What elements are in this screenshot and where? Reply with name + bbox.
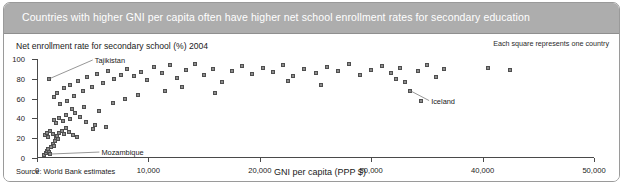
annotation-label: Tajikistan — [95, 55, 125, 64]
data-point-marker — [111, 101, 115, 105]
data-point-marker — [47, 77, 51, 81]
data-point-marker — [68, 83, 72, 87]
data-point-marker — [119, 73, 123, 77]
data-point-marker — [419, 99, 423, 103]
data-point-marker — [73, 111, 77, 115]
data-point-marker — [291, 74, 295, 78]
data-point-marker — [425, 63, 429, 67]
data-point-marker — [54, 121, 58, 125]
y-axis-tick-label: 0 — [21, 154, 25, 163]
y-axis-tick-label: 40 — [17, 114, 25, 123]
data-point-marker — [72, 94, 76, 98]
data-point-marker — [211, 67, 215, 71]
data-point-marker — [202, 73, 206, 77]
data-point-marker — [163, 89, 167, 93]
data-point-marker — [175, 76, 179, 80]
chart-frame: Countries with higher GNI per capita oft… — [3, 2, 620, 182]
data-point-marker — [486, 66, 490, 70]
data-point-marker — [104, 125, 108, 129]
data-point-marker — [408, 89, 412, 93]
data-point-marker — [51, 132, 55, 136]
data-point-marker — [106, 69, 110, 73]
data-point-marker — [325, 65, 329, 69]
data-point-marker — [55, 91, 59, 95]
data-point-marker — [68, 117, 72, 121]
data-point-marker — [52, 144, 56, 148]
data-point-marker — [136, 93, 140, 97]
data-point-marker — [152, 65, 156, 69]
data-point-marker — [75, 135, 79, 139]
data-point-marker — [434, 75, 438, 79]
x-axis-tick-label: 50,000 — [582, 166, 605, 175]
data-point-marker — [81, 89, 85, 93]
data-point-marker — [85, 75, 89, 79]
x-axis-tick: 40,000 — [483, 158, 484, 162]
y-axis-tick: 20 — [32, 138, 37, 139]
y-axis-tick: 60 — [32, 99, 37, 100]
page-title: Countries with higher GNI per capita oft… — [22, 11, 530, 23]
data-point-marker — [84, 120, 88, 124]
data-point-marker — [250, 72, 254, 76]
y-axis-tick: 100 — [32, 59, 37, 60]
data-point-marker — [220, 80, 224, 84]
data-point-marker — [145, 78, 149, 82]
legend-note: Each square represents one country — [493, 39, 609, 48]
data-point-marker — [70, 107, 74, 111]
x-axis-tick-label: 40,000 — [471, 166, 494, 175]
source-note: Source: World Bank estimates — [16, 167, 115, 176]
data-point-marker — [95, 72, 99, 76]
data-point-marker — [286, 79, 290, 83]
data-point-marker — [416, 69, 420, 73]
data-point-marker — [160, 71, 164, 75]
data-point-marker — [403, 80, 407, 84]
plot-area: 020406080100010,00020,00030,00040,00050,… — [37, 59, 594, 158]
data-point-marker — [52, 95, 56, 99]
data-point-marker — [97, 109, 101, 113]
data-point-marker — [302, 67, 306, 71]
data-point-marker — [91, 127, 95, 131]
data-point-marker — [336, 69, 340, 73]
data-point-marker — [213, 91, 217, 95]
data-point-marker — [281, 63, 285, 67]
data-point-marker — [82, 105, 86, 109]
y-axis-tick: 80 — [32, 79, 37, 80]
data-point-marker — [319, 83, 323, 87]
data-point-marker — [76, 79, 80, 83]
x-axis-line — [37, 157, 594, 158]
x-axis-tick: 50,000 — [594, 158, 595, 162]
data-point-marker — [193, 62, 197, 66]
data-point-marker — [394, 77, 398, 81]
data-point-marker — [314, 71, 318, 75]
annotation-label: Iceland — [431, 96, 455, 105]
data-point-marker — [358, 73, 362, 77]
data-point-marker — [61, 119, 65, 123]
data-point-marker — [112, 77, 116, 81]
x-axis-tick: 30,000 — [371, 158, 372, 162]
y-axis-tick: 40 — [32, 118, 37, 119]
data-point-marker — [139, 70, 143, 74]
data-point-marker — [62, 86, 66, 90]
data-point-marker — [125, 67, 129, 71]
data-point-marker — [389, 71, 393, 75]
data-point-marker — [62, 132, 66, 136]
chart-panel: Net enrollment rate for secondary school… — [4, 34, 619, 182]
x-axis-tick: 0 — [37, 158, 38, 162]
data-point-marker — [46, 135, 50, 139]
data-point-marker — [230, 69, 234, 73]
x-axis-tick-label: 20,000 — [248, 166, 271, 175]
data-point-marker — [58, 102, 62, 106]
data-point-marker — [508, 68, 512, 72]
x-axis-label: GNI per capita (PPP $) — [274, 167, 366, 177]
data-point-marker — [56, 137, 60, 141]
data-point-marker — [380, 64, 384, 68]
y-axis-tick-label: 100 — [12, 55, 25, 64]
y-axis-label: Net enrollment rate for secondary school… — [16, 41, 208, 51]
data-point-marker — [261, 66, 265, 70]
data-point-marker — [369, 68, 373, 72]
data-point-marker — [71, 133, 75, 137]
data-point-marker — [132, 74, 136, 78]
chart-figure: Countries with higher GNI per capita oft… — [0, 0, 625, 189]
data-point-marker — [78, 115, 82, 119]
data-point-marker — [123, 97, 127, 101]
data-point-marker — [101, 81, 105, 85]
